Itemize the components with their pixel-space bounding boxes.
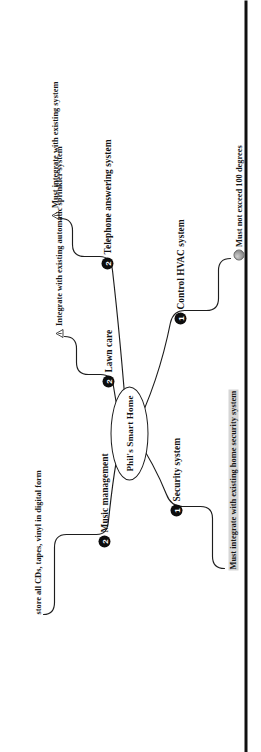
- badge-count-icon: 2: [98, 535, 110, 547]
- note-store-media[interactable]: store all CDs, tapes, vinyl in digital f…: [30, 470, 43, 614]
- branch-control-hvac-system[interactable]: 1 Control HVAC system: [172, 219, 186, 324]
- connector-lines: [0, 0, 261, 752]
- wire-note-store-media: [43, 534, 66, 614]
- center-node[interactable]: Phil's Smart Home: [110, 386, 148, 480]
- wire-note-hvac: [206, 258, 230, 310]
- center-node-label: Phil's Smart Home: [124, 395, 134, 471]
- wire-note-sprinkler: [64, 336, 88, 374]
- sphere-icon: [233, 249, 244, 260]
- note-text: Must integrate with existing system: [51, 81, 60, 208]
- branch-label: Music management: [100, 453, 110, 532]
- note-must-integrate-existing[interactable]: Must integrate with existing system: [47, 81, 60, 220]
- badge-count-icon: 1: [170, 504, 182, 516]
- page-rule: [244, 0, 247, 752]
- note-text: Must not exceed 100 degrees: [235, 145, 244, 247]
- badge-count-icon: 1: [174, 312, 186, 324]
- branch-label: Control HVAC system: [176, 219, 186, 309]
- note-text: store all CDs, tapes, vinyl in digital f…: [34, 470, 43, 614]
- mindmap-canvas: Phil's Smart Home 2 Music management sto…: [0, 0, 261, 752]
- branch-label: Security system: [172, 438, 182, 502]
- branch-music-management[interactable]: 2 Music management: [96, 453, 110, 547]
- branch-security-system[interactable]: 1 Security system: [168, 438, 182, 517]
- branch-lawn-care[interactable]: 2 Lawn care: [100, 329, 114, 387]
- badge-count-icon: 2: [101, 257, 113, 269]
- branch-telephone-answering-system[interactable]: 2 Telephone answering system: [99, 139, 113, 269]
- warning-icon: [50, 210, 60, 220]
- warning-icon: [54, 328, 64, 338]
- branch-label: Telephone answering system: [103, 139, 113, 254]
- wire-note-security: [200, 506, 224, 568]
- note-temperature-limit[interactable]: Must not exceed 100 degrees: [231, 145, 244, 260]
- badge-count-icon: 2: [102, 375, 114, 387]
- branch-label: Lawn care: [104, 329, 114, 372]
- note-text: Must integrate with existing home securi…: [228, 389, 238, 570]
- note-home-security-integration[interactable]: Must integrate with existing home securi…: [225, 389, 238, 570]
